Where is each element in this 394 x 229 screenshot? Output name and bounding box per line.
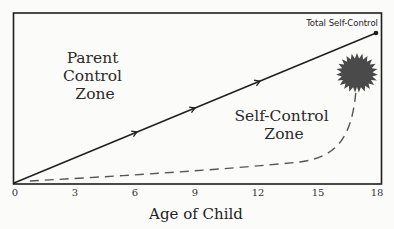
parent-control-zone-label: Parent Control Zone	[63, 49, 127, 103]
self-zone-line-1: Self-Control	[234, 107, 328, 125]
diagram-frame	[14, 13, 382, 184]
endpoint-dot	[374, 31, 379, 36]
parent-zone-line-1: Parent	[67, 49, 120, 67]
x-tick-0: 0	[12, 187, 18, 198]
x-tick-12: 12	[252, 187, 265, 198]
x-tick-15: 15	[312, 187, 325, 198]
x-tick-9: 9	[192, 187, 198, 198]
self-control-diagram: Parent Control Zone Self-Control Zone To…	[0, 0, 394, 229]
x-tick-6: 6	[132, 187, 138, 198]
self-control-dashed-curve	[30, 90, 356, 181]
burst-icon	[336, 53, 378, 93]
parent-zone-line-2: Control	[63, 67, 122, 85]
x-tick-3: 3	[72, 187, 78, 198]
total-self-control-label: Total Self-Control	[305, 18, 378, 28]
parent-zone-line-3: Zone	[75, 85, 114, 103]
self-zone-line-2: Zone	[264, 125, 303, 143]
x-tick-18: 18	[371, 187, 384, 198]
self-control-zone-label: Self-Control Zone	[234, 107, 333, 143]
x-axis-title: Age of Child	[148, 205, 243, 223]
